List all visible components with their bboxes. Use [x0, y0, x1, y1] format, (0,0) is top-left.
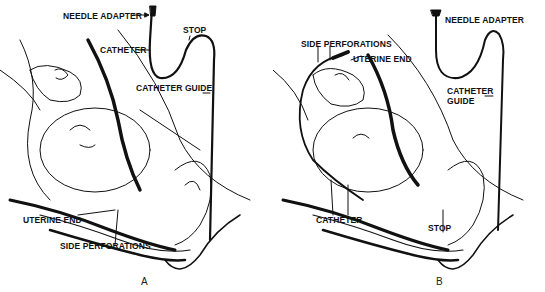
panel-letter-a: A — [141, 276, 148, 287]
label-side-perforations: SIDE PERFORATIONS — [301, 39, 392, 49]
catheter-tube — [150, 8, 215, 240]
label-stop: STOP — [183, 25, 206, 35]
needle-adapter-hub — [150, 6, 156, 16]
label-side-perforations: SIDE PERFORATIONS — [60, 241, 151, 251]
label-uterine-end: UTERINE END — [353, 54, 412, 64]
label-needle-adapter: NEEDLE ADAPTER — [445, 15, 524, 25]
label-catheter-guide: CATHETER GUIDE — [136, 83, 212, 93]
label-uterine-end: UTERINE END — [23, 215, 82, 225]
panel-a: NEEDLE ADAPTER CATHETER STOP CATHETER GU… — [0, 0, 272, 292]
label-catheter: CATHETER — [100, 45, 146, 55]
label-catheter-guide-line2: GUIDE — [447, 96, 474, 106]
panel-b: NEEDLE ADAPTER SIDE PERFORATIONS UTERINE… — [273, 0, 545, 292]
label-catheter-guide-line1: CATHETER — [447, 86, 493, 96]
label-catheter: CATHETER — [316, 215, 362, 225]
needle-adapter-hub — [431, 10, 441, 16]
label-stop: STOP — [428, 223, 451, 233]
panel-letter-b: B — [436, 276, 443, 287]
label-needle-adapter: NEEDLE ADAPTER — [63, 11, 142, 21]
